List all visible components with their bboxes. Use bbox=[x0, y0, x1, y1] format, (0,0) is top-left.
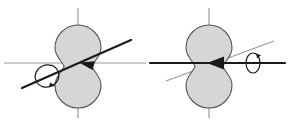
diagram-root bbox=[0, 0, 296, 125]
left-peanut-body bbox=[55, 25, 101, 108]
right-figure bbox=[150, 8, 285, 118]
diagram-canvas bbox=[0, 0, 296, 125]
right-peanut-body bbox=[186, 25, 232, 108]
left-figure bbox=[4, 8, 146, 118]
